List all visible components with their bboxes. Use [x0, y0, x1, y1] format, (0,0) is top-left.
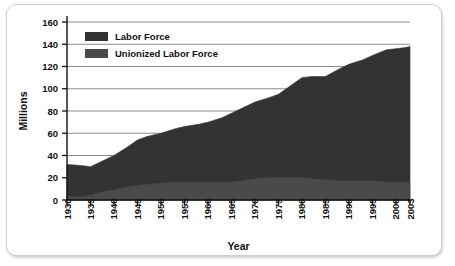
- y-tick-label: 160: [42, 17, 58, 28]
- x-tick-label: 1975: [273, 198, 284, 220]
- legend-label-2: Unionized Labor Force: [115, 48, 218, 59]
- labor-force-area-chart: 0204060801001201401601930193519401945195…: [0, 0, 455, 266]
- x-tick-label: 1955: [179, 198, 190, 220]
- x-tick-label: 1980: [296, 198, 307, 219]
- y-tick-label: 100: [42, 83, 58, 94]
- x-tick-label: 1930: [62, 198, 73, 219]
- area-series-1: [67, 46, 410, 200]
- y-tick-label: 120: [42, 61, 58, 72]
- legend-label-1: Labor Force: [115, 31, 170, 42]
- x-tick-label: 1945: [132, 198, 143, 220]
- chart-container: 0204060801001201401601930193519401945195…: [0, 0, 455, 266]
- y-tick-label: 40: [47, 150, 58, 161]
- x-axis-title: Year: [227, 240, 249, 252]
- x-tick-label: 1960: [202, 198, 213, 219]
- y-tick-label: 60: [47, 128, 58, 139]
- x-tick-label: 1940: [108, 198, 119, 219]
- x-tick-label: 1965: [226, 198, 237, 220]
- x-tick-label: 2003: [405, 198, 416, 219]
- x-tick-label: 1970: [249, 198, 260, 219]
- y-tick-label: 20: [47, 172, 58, 183]
- x-tick-label: 1950: [155, 198, 166, 219]
- x-tick-label: 1985: [320, 198, 331, 220]
- x-tick-label: 1990: [343, 198, 354, 219]
- x-tick-label: 1935: [85, 198, 96, 220]
- legend-swatch-1: [85, 32, 108, 41]
- y-tick-label: 140: [42, 39, 58, 50]
- y-axis-title: Millions: [17, 91, 29, 130]
- y-tick-label: 0: [53, 195, 58, 206]
- x-tick-label: 1995: [367, 198, 378, 220]
- y-tick-label: 80: [47, 106, 58, 117]
- x-tick-label: 2000: [390, 198, 401, 219]
- legend-swatch-2: [85, 49, 108, 58]
